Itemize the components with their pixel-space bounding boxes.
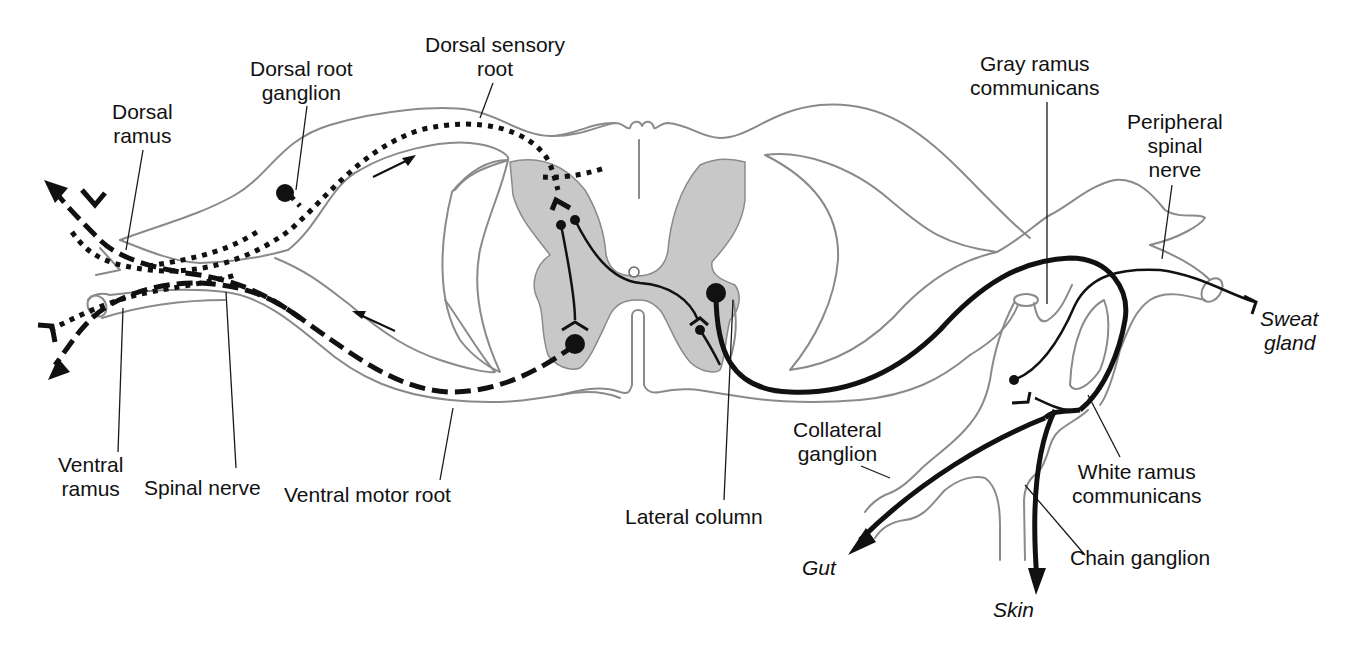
label-line: root [425,57,565,81]
label-line: Ventral [58,453,123,477]
label-collateral-ganglion: Collateral ganglion [793,418,882,466]
label-line: nerve [1127,158,1223,182]
sensory-ending-ventral [38,325,55,342]
label-line: Skin [993,598,1034,622]
label-dorsal-root-ganglion: Dorsal root ganglion [250,57,353,105]
label-line: ganglion [793,442,882,466]
label-line: gland [1260,331,1318,355]
arrowhead-ventral-ramus [48,358,70,380]
label-lateral-column: Lateral column [625,505,763,529]
label-line: Lateral column [625,505,763,529]
label-line: ganglion [250,81,353,105]
label-line: Collateral [793,418,882,442]
sensory-ending-dorsal [82,190,105,205]
label-line: communicans [970,76,1100,100]
arrowhead-skin [1028,568,1046,595]
label-dorsal-ramus: Dorsal ramus [112,100,173,148]
label-line: Ventral motor root [284,483,451,507]
gray-matter [510,159,745,372]
label-line: Chain ganglion [1070,546,1210,570]
dorsal-root-ganglion-cell [276,184,294,202]
ventral-motor-neuron [565,334,585,354]
label-chain-ganglion: Chain ganglion [1070,546,1210,570]
label-line: ramus [112,124,173,148]
label-line: ramus [58,477,123,501]
central-canal [629,267,639,277]
label-line: Gut [802,556,836,580]
arrowhead-gut [848,528,876,555]
label-line: communicans [1072,484,1202,508]
label-peripheral-spinal-nerve: Peripheral spinal nerve [1127,110,1223,182]
spinal-cord-outline [442,104,1030,402]
label-white-ramus-communicans: White ramus communicans [1072,460,1202,508]
motor-pathway [44,180,588,392]
label-line: Dorsal [112,100,173,124]
label-line: Dorsal root [250,57,353,81]
label-gray-ramus-communicans: Gray ramus communicans [970,52,1100,100]
label-line: spinal [1127,134,1223,158]
label-gut: Gut [802,556,836,580]
label-skin: Skin [993,598,1034,622]
label-ventral-motor-root: Ventral motor root [284,483,451,507]
label-line: Sweat [1260,307,1318,331]
label-line: Spinal nerve [144,476,261,500]
label-spinal-nerve: Spinal nerve [144,476,261,500]
label-line: White ramus [1072,460,1202,484]
label-dorsal-sensory-root: Dorsal sensory root [425,33,565,81]
direction-arrows [352,155,416,331]
label-line: Peripheral [1127,110,1223,134]
label-line: Dorsal sensory [425,33,565,57]
label-ventral-ramus: Ventral ramus [58,453,123,501]
label-sweat-gland: Sweat gland [1260,307,1318,355]
label-line: Gray ramus [970,52,1100,76]
